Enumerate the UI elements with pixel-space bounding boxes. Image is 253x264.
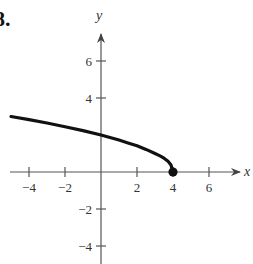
y-tick-label: 6	[86, 54, 93, 69]
x-tick-label: −2	[58, 180, 72, 195]
x-tick-label: 6	[206, 180, 213, 195]
y-tick-label: −2	[78, 202, 92, 217]
x-tick-label: 4	[170, 180, 177, 195]
y-axis-label: y	[94, 8, 103, 23]
x-axis-label: x	[243, 164, 251, 179]
x-tick-label: −4	[22, 180, 36, 195]
plot-area: x y −4 −2 2 4 6 6 4 −2 −4	[0, 0, 253, 264]
graph-figure: 8. x y −4 −2 2 4 6	[0, 0, 253, 264]
x-tick-label: 2	[134, 180, 141, 195]
function-curve	[11, 117, 173, 173]
y-tick-label: −4	[78, 239, 92, 254]
endpoint-dot	[168, 167, 177, 176]
y-tick-label: 4	[86, 91, 93, 106]
